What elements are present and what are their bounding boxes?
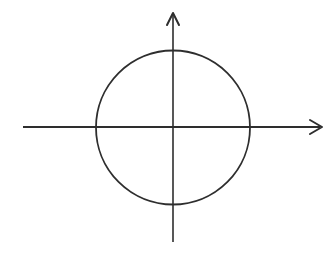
diagram-canvas <box>0 0 334 254</box>
circle-diagram <box>0 0 334 254</box>
